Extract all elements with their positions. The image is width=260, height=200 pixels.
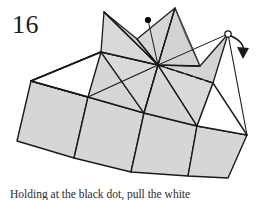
figure-caption: Holding at the black dot, pull the white <box>10 188 250 200</box>
origami-diagram: Origami folding step 16 <box>0 0 260 200</box>
pull-arrow <box>231 36 249 59</box>
open-circle-marker <box>225 31 231 37</box>
figure-caption-clip: Holding at the black dot, pull the white <box>10 188 250 200</box>
origami-figure: 16 Origami folding step 16 <box>0 0 260 200</box>
black-dot-marker <box>145 17 151 23</box>
pull-arrow-head <box>237 47 249 59</box>
